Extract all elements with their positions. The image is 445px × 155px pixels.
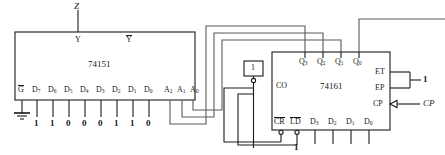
load-value-one: 1 bbox=[294, 143, 299, 152]
input-value-d2: 1 bbox=[114, 119, 119, 128]
counter-enable-ep: EP bbox=[375, 84, 384, 92]
signal-label-z: Z bbox=[74, 2, 79, 11]
counter-pin-d0: D0 bbox=[364, 118, 373, 126]
schematic-canvas bbox=[0, 0, 445, 155]
enable-value-one: 1 bbox=[423, 75, 428, 84]
pin-label-d6: D6 bbox=[48, 86, 57, 94]
input-value-d1: 1 bbox=[130, 119, 135, 128]
circuit-schematic: Z Y Y 74151 G D7 D6 D5 D4 D3 D2 D1 D0 A2… bbox=[0, 0, 445, 155]
mux-output-y: Y bbox=[75, 36, 81, 44]
clock-input-triangle bbox=[390, 101, 397, 108]
pin-label-d2: D2 bbox=[112, 86, 121, 94]
clock-signal-label: CP bbox=[423, 99, 435, 108]
counter-chip-name: 74161 bbox=[320, 82, 343, 91]
pin-label-d7: D7 bbox=[32, 86, 41, 94]
pin-label-a1: A1 bbox=[177, 86, 186, 94]
wire-q0-rail bbox=[359, 19, 445, 52]
mux-output-ybar: Y bbox=[126, 36, 132, 44]
pin-label-a0: A0 bbox=[190, 86, 199, 94]
input-value-d0: 0 bbox=[146, 119, 151, 128]
counter-pin-ldbar: LD bbox=[290, 118, 301, 126]
crbar-bubble bbox=[279, 130, 283, 134]
inverter-symbol: 1 bbox=[251, 64, 255, 72]
input-value-d5: 0 bbox=[66, 119, 71, 128]
pin-label-a2: A2 bbox=[164, 86, 173, 94]
inverter-bubble bbox=[251, 78, 255, 82]
pin-label-d0: D0 bbox=[144, 86, 153, 94]
mux-chip-name: 74151 bbox=[88, 60, 111, 69]
counter-pin-crbar: CR bbox=[274, 118, 285, 126]
input-value-d3: 0 bbox=[98, 119, 103, 128]
counter-output-q2: Q2 bbox=[317, 58, 326, 66]
counter-output-q0: Q0 bbox=[353, 58, 362, 66]
pin-label-d4: D4 bbox=[80, 86, 89, 94]
input-value-d6: 1 bbox=[50, 119, 55, 128]
counter-pin-d3: D3 bbox=[310, 118, 319, 126]
counter-pin-d2: D2 bbox=[328, 118, 337, 126]
input-value-d4: 0 bbox=[82, 119, 87, 128]
counter-clock-pin: CP bbox=[373, 100, 383, 108]
counter-enable-et: ET bbox=[375, 68, 385, 76]
counter-output-q1: Q1 bbox=[335, 58, 344, 66]
pin-label-d3: D3 bbox=[96, 86, 105, 94]
counter-pin-d1: D1 bbox=[346, 118, 355, 126]
pin-label-d1: D1 bbox=[128, 86, 137, 94]
mux-enable-gbar: G bbox=[18, 86, 24, 94]
counter-carry-out: CO bbox=[276, 82, 287, 90]
pin-label-d5: D5 bbox=[64, 86, 73, 94]
input-value-d7: 1 bbox=[34, 119, 39, 128]
ldbar-bubble bbox=[295, 130, 299, 134]
counter-output-q3: Q3 bbox=[299, 58, 308, 66]
